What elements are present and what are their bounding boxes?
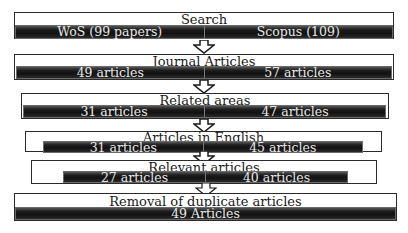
english-left-count: 31 articles [44,142,203,152]
stage-duplicates-bar: 49 Articles [15,207,396,220]
scopus-count: Scopus (109) [204,26,393,38]
relevant-right-count: 40 articles [205,172,347,182]
journal-left-count: 49 articles [17,67,204,78]
journal-right-count: 57 articles [204,67,392,78]
wos-count: WoS (99 papers) [16,26,204,38]
relevant-left-count: 27 articles [64,172,205,182]
stage-related-bar: 31 articles 47 articles [23,105,386,118]
stage-relevant-bar: 27 articles 40 articles [63,171,348,183]
flowchart: Search WoS (99 papers) Scopus (109) Jour… [0,0,408,233]
english-right-count: 45 articles [203,142,363,152]
related-left-count: 31 articles [24,106,204,117]
related-right-count: 47 articles [204,106,385,117]
final-count: 49 Articles [16,208,395,219]
down-arrow-icon [193,40,215,54]
stage-journal-bar: 49 articles 57 articles [16,66,392,79]
down-arrow-icon [193,80,215,94]
stage-search-bar: WoS (99 papers) Scopus (109) [15,25,393,39]
